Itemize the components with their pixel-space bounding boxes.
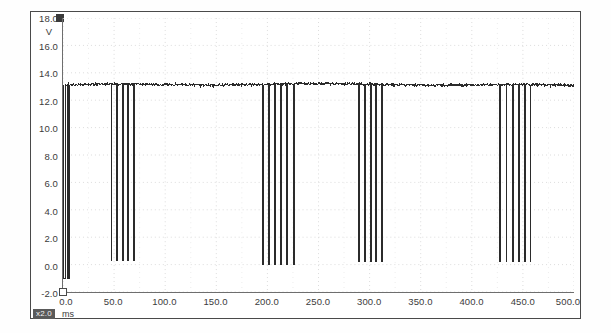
x-axis-tick-labels: 0.050.0100.0150.0200.0250.0300.0350.0400…	[62, 296, 574, 310]
x-tick-label: 500.0	[556, 296, 580, 307]
x-tick-label: 0.0	[59, 296, 73, 307]
y-tick-label: 14.0	[39, 68, 58, 79]
x-tick-label: 400.0	[459, 296, 483, 307]
x-tick-label: 350.0	[408, 296, 432, 307]
oscilloscope-figure: V 18.016.014.012.010.08.06.04.02.00.0-2.…	[0, 0, 611, 333]
x-tick-label: 250.0	[306, 296, 330, 307]
y-tick-label: 16.0	[39, 40, 58, 51]
y-tick-label: 4.0	[44, 205, 58, 216]
y-tick-label: 0.0	[44, 260, 58, 271]
y-tick-label: 6.0	[44, 178, 58, 189]
y-tick-label: 10.0	[39, 123, 58, 134]
x-axis-unit-label: ms	[62, 309, 74, 319]
x-tick-label: 100.0	[152, 296, 176, 307]
plot-area	[62, 18, 574, 293]
y-tick-label: 2.0	[44, 233, 58, 244]
y-tick-label: -2.0	[41, 288, 58, 299]
y-tick-label: 12.0	[39, 95, 58, 106]
x-tick-label: 200.0	[255, 296, 279, 307]
y-tick-label: 18.0	[39, 13, 58, 24]
x-tick-label: 300.0	[357, 296, 381, 307]
x-tick-label: 50.0	[104, 296, 123, 307]
x-origin-marker-icon	[59, 288, 67, 296]
y-tick-label: 8.0	[44, 150, 58, 161]
y-axis-tick-labels: 18.016.014.012.010.08.06.04.02.00.0-2.0	[0, 18, 58, 293]
waveform-trace	[63, 18, 574, 292]
zoom-level-badge: x2.0	[33, 309, 55, 319]
x-tick-label: 150.0	[203, 296, 227, 307]
x-tick-label: 450.0	[511, 296, 535, 307]
voltage-trace-path	[63, 83, 574, 279]
